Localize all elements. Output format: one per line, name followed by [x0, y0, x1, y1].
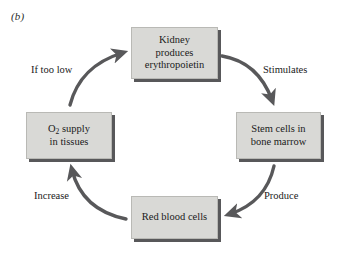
- node-red-blood-cells: Red blood cells: [131, 196, 218, 239]
- arrow-red-blood-cells-to-oxygen: [72, 170, 126, 219]
- arrow-kidney-to-stem-cells: [222, 56, 272, 100]
- arrow-oxygen-to-kidney: [70, 53, 122, 105]
- node-oxygen-supply-label: O2 supply in tissues: [44, 123, 94, 149]
- oxygen-symbol: O: [48, 123, 56, 134]
- node-kidney-produces-erythropoietin: Kidney produces erythropoietin: [131, 27, 218, 79]
- node-stem-cells-label: Stem cells in bone marrow: [247, 123, 311, 149]
- node-red-blood-cells-label: Red blood cells: [138, 211, 211, 224]
- edge-label-produce: Produce: [264, 190, 298, 201]
- edge-label-if-too-low: If too low: [31, 64, 72, 75]
- node-oxygen-supply-in-tissues: O2 supply in tissues: [26, 112, 112, 159]
- edge-label-stimulates: Stimulates: [263, 64, 307, 75]
- erythropoietin-cycle-figure: (b) Kidney produces erythropoietin Stem …: [0, 0, 343, 256]
- node-kidney-label: Kidney produces erythropoietin: [141, 34, 208, 72]
- edge-label-increase: Increase: [34, 190, 69, 201]
- node-stem-cells-bone-marrow: Stem cells in bone marrow: [236, 112, 321, 159]
